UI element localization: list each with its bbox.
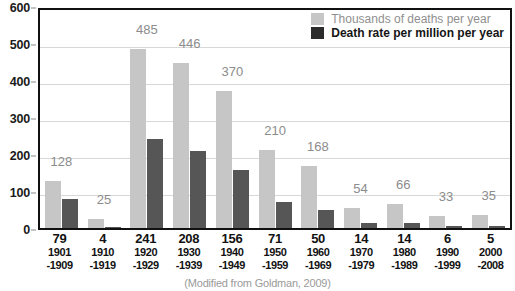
x-axis-death-rate-value: 5 bbox=[469, 232, 512, 246]
bar-group: 210 bbox=[254, 10, 297, 228]
y-axis-tick-label: 300 bbox=[10, 113, 30, 126]
bar-group: 446 bbox=[168, 10, 211, 228]
bar-value-label: 128 bbox=[40, 155, 83, 168]
y-axis-tick-label: 400 bbox=[10, 76, 30, 89]
x-axis-group-label: 2081930-1939 bbox=[167, 232, 210, 271]
x-axis-year-start: 1950 bbox=[253, 246, 296, 259]
bar-groups: 1282548544637021016854663335 bbox=[40, 10, 510, 228]
x-axis-year-start: 1990 bbox=[426, 246, 469, 259]
x-axis-year-start: 1901 bbox=[38, 246, 81, 259]
bar-group: 25 bbox=[83, 10, 126, 228]
x-axis-death-rate-value: 156 bbox=[210, 232, 253, 246]
x-axis-group-label: 791901-1909 bbox=[38, 232, 81, 271]
bar-death-rate bbox=[62, 199, 78, 228]
plot-area: Thousands of deaths per year Death rate … bbox=[38, 8, 512, 230]
x-axis-year-start: 1980 bbox=[383, 246, 426, 259]
bar-death-rate bbox=[404, 223, 420, 228]
bar-group: 485 bbox=[125, 10, 168, 228]
x-axis-group-label: 711950-1959 bbox=[253, 232, 296, 271]
bar-thousands-of-deaths bbox=[130, 49, 146, 228]
x-axis-year-end: -1969 bbox=[297, 259, 340, 272]
bar-thousands-of-deaths bbox=[387, 204, 403, 228]
x-axis-death-rate-value: 14 bbox=[340, 232, 383, 246]
x-axis-death-rate-value: 79 bbox=[38, 232, 81, 246]
y-axis-tick-label: 600 bbox=[10, 2, 30, 15]
bar-value-label: 35 bbox=[467, 189, 510, 202]
bar-thousands-of-deaths bbox=[173, 63, 189, 228]
y-axis-tick-mark bbox=[31, 82, 36, 83]
bar-group: 370 bbox=[211, 10, 254, 228]
bar-death-rate bbox=[105, 227, 121, 228]
y-axis-tick-mark bbox=[31, 230, 36, 231]
bar-value-label: 33 bbox=[425, 190, 468, 203]
bar-death-rate bbox=[147, 139, 163, 228]
x-axis-death-rate-value: 4 bbox=[81, 232, 124, 246]
bar-group: 168 bbox=[296, 10, 339, 228]
x-axis-group-label: 61990-1999 bbox=[426, 232, 469, 271]
x-axis-death-rate-value: 6 bbox=[426, 232, 469, 246]
bar-death-rate bbox=[361, 223, 377, 228]
x-axis-death-rate-value: 241 bbox=[124, 232, 167, 246]
bar-value-label: 168 bbox=[296, 140, 339, 153]
x-axis-year-start: 1910 bbox=[81, 246, 124, 259]
bar-group: 33 bbox=[425, 10, 468, 228]
x-axis-year-end: -1909 bbox=[38, 259, 81, 272]
bar-thousands-of-deaths bbox=[259, 150, 275, 228]
bar-group: 128 bbox=[40, 10, 83, 228]
x-axis-group-label: 2411920-1929 bbox=[124, 232, 167, 271]
x-axis-year-end: -1949 bbox=[210, 259, 253, 272]
x-axis-year-end: -1929 bbox=[124, 259, 167, 272]
bar-value-label: 210 bbox=[254, 124, 297, 137]
bar-thousands-of-deaths bbox=[472, 215, 488, 228]
bar-value-label: 485 bbox=[125, 23, 168, 36]
x-axis-group-label: 52000-2008 bbox=[469, 232, 512, 271]
x-axis-year-end: -1919 bbox=[81, 259, 124, 272]
bar-thousands-of-deaths bbox=[88, 219, 104, 228]
bar-value-label: 446 bbox=[168, 37, 211, 50]
bar-value-label: 370 bbox=[211, 65, 254, 78]
x-axis-year-end: -1979 bbox=[340, 259, 383, 272]
chart-caption: (Modified from Goldman, 2009) bbox=[0, 277, 515, 291]
x-axis: 791901-190941910-19192411920-19292081930… bbox=[38, 232, 512, 271]
y-axis-tick-mark bbox=[31, 156, 36, 157]
x-axis-group-label: 141970-1979 bbox=[340, 232, 383, 271]
x-axis-death-rate-value: 208 bbox=[167, 232, 210, 246]
x-axis-year-end: -1989 bbox=[383, 259, 426, 272]
x-axis-year-end: -1939 bbox=[167, 259, 210, 272]
bar-value-label: 66 bbox=[382, 178, 425, 191]
x-axis-death-rate-value: 50 bbox=[297, 232, 340, 246]
bar-death-rate bbox=[276, 202, 292, 228]
bar-death-rate bbox=[190, 151, 206, 228]
bar-group: 54 bbox=[339, 10, 382, 228]
bar-death-rate bbox=[233, 170, 249, 228]
x-axis-year-end: -1999 bbox=[426, 259, 469, 272]
x-axis-year-start: 1930 bbox=[167, 246, 210, 259]
chart-container: 0100200300400500600 Thousands of deaths … bbox=[0, 0, 515, 291]
bar-group: 66 bbox=[382, 10, 425, 228]
x-axis-year-start: 1920 bbox=[124, 246, 167, 259]
x-axis-group-label: 501960-1969 bbox=[297, 232, 340, 271]
bar-death-rate bbox=[446, 226, 462, 228]
x-axis-year-start: 1940 bbox=[210, 246, 253, 259]
x-axis-group-label: 1561940-1949 bbox=[210, 232, 253, 271]
x-axis-death-rate-value: 71 bbox=[253, 232, 296, 246]
x-axis-year-start: 1970 bbox=[340, 246, 383, 259]
y-axis-tick-label: 200 bbox=[10, 150, 30, 163]
bar-thousands-of-deaths bbox=[216, 91, 232, 228]
bar-value-label: 25 bbox=[83, 193, 126, 206]
x-axis-group-label: 141980-1989 bbox=[383, 232, 426, 271]
y-axis-tick-mark bbox=[31, 45, 36, 46]
bar-thousands-of-deaths bbox=[45, 181, 61, 228]
y-axis-tick-label: 0 bbox=[23, 224, 30, 237]
y-axis-tick-label: 500 bbox=[10, 39, 30, 52]
bar-group: 35 bbox=[467, 10, 510, 228]
x-axis-year-start: 2000 bbox=[469, 246, 512, 259]
bar-death-rate bbox=[489, 226, 505, 228]
y-axis-tick-mark bbox=[31, 8, 36, 9]
y-axis-tick-label: 100 bbox=[10, 187, 30, 200]
x-axis-year-start: 1960 bbox=[297, 246, 340, 259]
bar-thousands-of-deaths bbox=[301, 166, 317, 228]
bar-value-label: 54 bbox=[339, 182, 382, 195]
bar-thousands-of-deaths bbox=[344, 208, 360, 228]
bar-death-rate bbox=[318, 210, 334, 229]
